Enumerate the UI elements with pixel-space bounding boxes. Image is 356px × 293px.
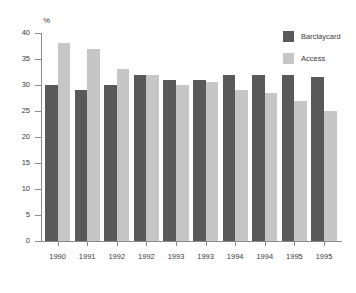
bar-access-1994-7 (265, 93, 278, 241)
bar-barclaycard-1993-4 (163, 80, 176, 241)
y-axis-tick (35, 241, 41, 242)
bar-barclaycard-1990-0 (45, 85, 58, 241)
legend-label: Barclaycard (301, 32, 341, 41)
x-axis-tick (87, 241, 88, 246)
x-axis-tick (117, 241, 118, 246)
legend-swatch-icon (283, 53, 294, 64)
bar-barclaycard-1992-3 (134, 75, 147, 241)
bar-access-1994-6 (235, 90, 248, 241)
x-axis-tick-label: 1995 (304, 252, 344, 261)
bar-access-1990-0 (58, 43, 71, 241)
bar-access-1995-8 (294, 101, 307, 241)
x-axis-line (41, 241, 342, 242)
x-axis-tick (176, 241, 177, 246)
bar-access-1993-5 (206, 82, 219, 241)
legend-label: Access (301, 54, 325, 63)
x-axis-tick (294, 241, 295, 246)
bar-access-1992-2 (117, 69, 130, 241)
bar-access-1991-1 (87, 49, 100, 241)
x-axis-tick (265, 241, 266, 246)
bar-barclaycard-1993-5 (193, 80, 206, 241)
x-axis-tick (58, 241, 59, 246)
x-axis-tick (206, 241, 207, 246)
bar-barclaycard-1995-8 (282, 75, 295, 241)
bar-barclaycard-1995-9 (311, 77, 324, 241)
bar-barclaycard-1991-1 (75, 90, 88, 241)
bar-access-1993-4 (176, 85, 189, 241)
bar-barclaycard-1992-2 (104, 85, 117, 241)
x-axis-tick (235, 241, 236, 246)
legend-item: Barclaycard (283, 28, 341, 45)
x-axis-tick (146, 241, 147, 246)
bar-access-1992-3 (146, 75, 159, 241)
bar-chart: % 0510152025303540 199019911992199219931… (0, 0, 356, 293)
bar-barclaycard-1994-7 (252, 75, 265, 241)
bar-barclaycard-1994-6 (223, 75, 236, 241)
legend-item: Access (283, 50, 341, 67)
bar-access-1995-9 (324, 111, 337, 241)
x-axis-tick (324, 241, 325, 246)
legend-swatch-icon (283, 31, 294, 42)
chart-legend: BarclaycardAccess (283, 28, 341, 72)
